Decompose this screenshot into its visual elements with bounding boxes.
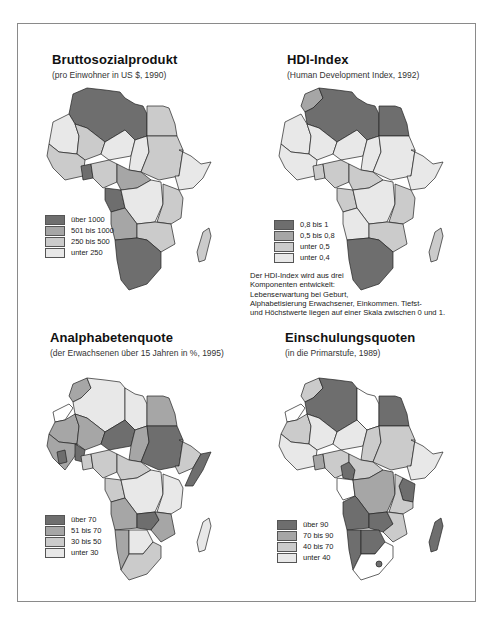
panel-einschulungsquoten: Einschulungsquoten (in die Primarstufe, … [247,310,494,600]
africa-map-illiteracy [25,374,245,594]
note-line: Lebenserwartung bei Geburt, [250,290,445,299]
legend-label: 0,8 bis 1 [300,220,328,230]
panel-bruttosozialprodukt: Bruttosozialprodukt (pro Einwohner in US… [0,0,247,310]
legend-label: 250 bis 500 [71,237,110,247]
legend-swatch [274,253,294,263]
legend-label: 40 bis 70 [303,542,333,552]
legend-label: unter 0,5 [300,242,330,252]
legend-swatch [45,237,65,247]
note-line: Alphabetisierung Erwachsener, Einkommen.… [250,299,445,308]
legend-label: über 1000 [71,215,105,225]
legend-label: 51 bis 70 [71,526,101,536]
legend-label: unter 40 [303,553,331,563]
africa-map-gnp [25,84,245,304]
panel-subtitle: (der Erwachsenen über 15 Jahren in %, 19… [50,348,224,358]
legend-swatch [45,515,65,525]
legend-label: unter 250 [71,248,103,258]
legend-label: unter 0,4 [300,253,330,263]
legend-label: unter 30 [71,548,99,558]
panel-subtitle: (pro Einwohner in US $, 1990) [52,70,166,80]
legend-label: 501 bis 1000 [71,226,114,236]
legend-label: 0,5 bis 0,8 [300,231,335,241]
panel-title: Bruttosozialprodukt [52,52,177,67]
note-line: Der HDI-Index wird aus drei [250,271,445,280]
legend-swatch [45,548,65,558]
legend-swatch [274,242,294,252]
legend-swatch [277,553,297,563]
panel-title: Einschulungsquoten [285,330,415,345]
legend-swatch [45,526,65,536]
legend-swatch [45,248,65,258]
panel-subtitle: (in die Primarstufe, 1989) [285,348,380,358]
panel-title: HDI-Index [287,52,349,67]
legend-swatch [277,531,297,541]
legend-swatch [45,537,65,547]
panel-title: Analphabetenquote [50,330,173,345]
note-line: Komponenten entwickelt: [250,280,445,289]
panel-hdi-index: HDI-Index (Human Development Index, 1992… [247,0,494,320]
legend-swatch [45,215,65,225]
legend-label: 30 bis 50 [71,537,101,547]
legend-label: über 70 [71,515,96,525]
panel-analphabetenquote: Analphabetenquote (der Erwachsenen über … [0,310,247,600]
legend-swatch [277,542,297,552]
legend-swatch [277,520,297,530]
legend-label: über 90 [303,520,328,530]
panel-subtitle: (Human Development Index, 1992) [287,70,419,80]
legend-label: 70 bis 90 [303,531,333,541]
legend-swatch [45,226,65,236]
legend-swatch [274,231,294,241]
legend-swatch [274,220,294,230]
